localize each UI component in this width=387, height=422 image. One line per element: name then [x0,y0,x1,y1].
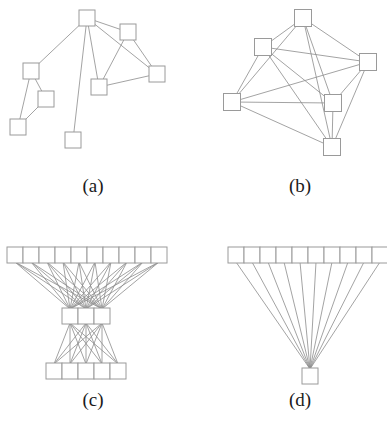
figure-canvas: (a) (b) (c) (d) [0,0,387,422]
node-c-top-row-7 [119,247,135,263]
node-c-top-row-2 [39,247,55,263]
node-c-top-row-8 [135,247,151,263]
node-a7 [65,132,81,148]
panel-label-d: (d) [289,389,311,411]
node-a0 [79,10,95,26]
node-c-top-row-0 [7,247,23,263]
node-a5 [38,91,54,107]
node-d-top-row-2 [260,247,276,263]
node-c-middle-row-0 [62,308,78,324]
node-c-bottom-row-4 [110,363,126,379]
node-d-top-row-8 [356,247,372,263]
node-b2 [360,54,377,71]
node-c-top-row-9 [151,247,167,263]
node-b5 [324,139,341,156]
node-d-top-row-3 [276,247,292,263]
node-a2 [149,66,165,82]
node-c-top-row-6 [103,247,119,263]
node-b1 [255,39,272,56]
node-d-top-row-9 [372,247,387,263]
node-d-top-row-7 [340,247,356,263]
node-c-bottom-row-3 [94,363,110,379]
node-b4 [325,95,342,112]
node-c-bottom-row-2 [78,363,94,379]
node-c-middle-row-2 [94,308,110,324]
node-d-top-row-6 [324,247,340,263]
node-c-top-row-3 [55,247,71,263]
node-c-top-row-4 [71,247,87,263]
node-a4 [23,63,39,79]
node-b3 [224,94,241,111]
node-a3 [91,79,107,95]
panel-label-c: (c) [82,389,103,411]
node-c-bottom-row-1 [62,363,78,379]
node-a6 [10,119,26,135]
node-d-sink-node-0 [302,368,318,384]
node-a1 [120,24,136,40]
graph-figure: (a) (b) (c) (d) [0,0,387,422]
node-c-top-row-1 [23,247,39,263]
node-c-bottom-row-0 [46,363,62,379]
node-d-top-row-5 [308,247,324,263]
node-d-top-row-1 [244,247,260,263]
node-c-middle-row-1 [78,308,94,324]
node-d-top-row-4 [292,247,308,263]
node-c-top-row-5 [87,247,103,263]
panel-label-b: (b) [289,175,311,197]
node-d-top-row-0 [228,247,244,263]
panel-label-a: (a) [82,175,103,197]
node-b0 [295,10,312,27]
